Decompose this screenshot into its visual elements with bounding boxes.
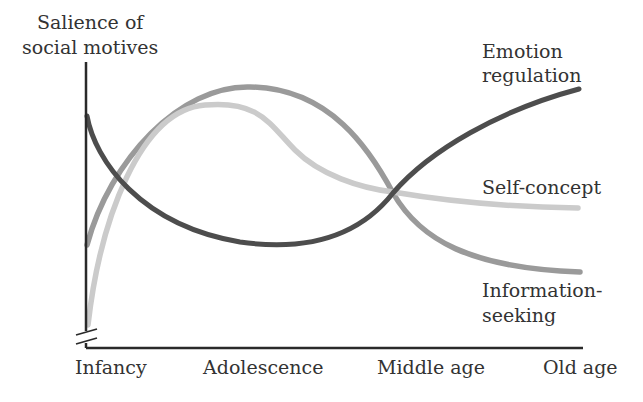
y-axis-label-line1: Salience of	[37, 11, 143, 34]
emotion-regulation-curve	[87, 89, 579, 245]
x-tick-middle-age: Middle age	[377, 356, 485, 379]
legend-information-seeking-line2: seeking	[482, 304, 556, 327]
x-tick-adolescence: Adolescence	[203, 356, 323, 379]
legend-self-concept: Self-concept	[482, 176, 601, 199]
legend-information-seeking-line1: Information-	[482, 279, 602, 302]
y-axis-label-line2: social motives	[22, 36, 158, 59]
x-tick-old-age: Old age	[543, 356, 618, 379]
legend-emotion-regulation-line1: Emotion	[482, 40, 563, 63]
legend-emotion-regulation-line2: regulation	[482, 64, 582, 87]
x-tick-infancy: Infancy	[75, 356, 147, 379]
